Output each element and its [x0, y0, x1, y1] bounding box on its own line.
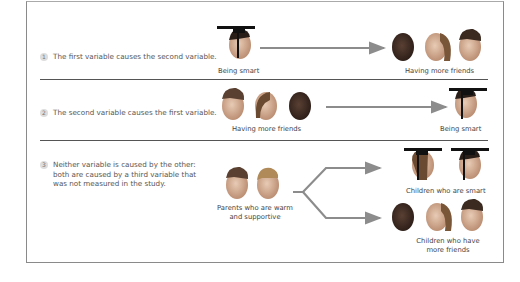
arrow-row3-upper [293, 168, 380, 192]
step-2-description: 2The second variable causes the first va… [40, 108, 217, 118]
arrow-row3-lower [303, 192, 380, 218]
graduate-heads-icon [404, 148, 489, 180]
graduate-head-icon [217, 26, 255, 59]
friend-heads-icon [392, 29, 481, 61]
effect-label: Being smart [440, 125, 481, 134]
friend-heads-icon [392, 199, 483, 231]
graduate-head-icon [449, 88, 487, 119]
cause-label: Being smart [218, 67, 259, 76]
parent-heads-icon [226, 167, 279, 199]
effect-label-friends: Children who have more friends [408, 237, 488, 254]
third-variable-label: Parents who are warm and supportive [215, 204, 295, 221]
friend-heads-icon [222, 88, 311, 120]
step-1-description: 1The first variable causes the second va… [40, 52, 217, 62]
effect-label: Having more friends [405, 67, 474, 76]
step-3-description: 3Neither variable is caused by the other… [40, 160, 196, 189]
step-number-badge: 2 [40, 109, 48, 117]
effect-label-smart: Children who are smart [406, 187, 486, 196]
step-number-badge: 1 [40, 53, 48, 61]
cause-label: Having more friends [232, 125, 301, 134]
step-number-badge: 3 [40, 161, 48, 169]
